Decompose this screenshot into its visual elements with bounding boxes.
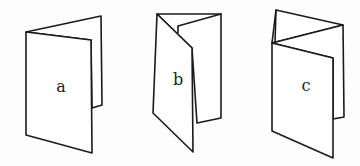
folded-leaflets-diagram: a b c: [0, 0, 360, 166]
leaflet-c-label: c: [302, 78, 311, 94]
leaflet-c-rear-left-edge: [275, 10, 276, 43]
leaflet-c-front-panel: [272, 43, 333, 158]
leaflet-b-label: b: [173, 72, 183, 88]
leaflet-b-drawing: [153, 14, 221, 152]
leaflet-a-label: a: [56, 79, 66, 95]
